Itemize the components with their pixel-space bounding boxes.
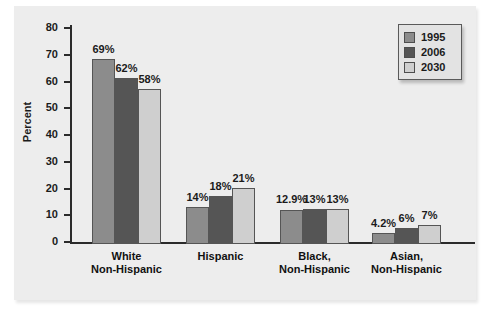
category-label-line: Non-Hispanic bbox=[342, 263, 472, 276]
legend-swatch-icon bbox=[404, 47, 415, 58]
bar bbox=[395, 228, 418, 244]
y-axis-tick bbox=[64, 161, 70, 163]
y-axis-tick-label: 70 bbox=[20, 49, 58, 60]
legend-swatch-icon bbox=[404, 62, 415, 73]
y-axis-tick bbox=[64, 188, 70, 190]
chart-legend: 199520062030 bbox=[398, 24, 462, 80]
plot-area: 80706050403020100 Percent 69%62%58%14%18… bbox=[14, 6, 476, 300]
y-axis-tick bbox=[64, 134, 70, 136]
bar bbox=[303, 209, 326, 244]
y-axis-tick-label: 80 bbox=[20, 22, 58, 33]
y-axis-tick-label: 10 bbox=[20, 209, 58, 220]
category-label-line: Asian, bbox=[342, 250, 472, 263]
y-axis-tick-label: 60 bbox=[20, 76, 58, 87]
bar bbox=[209, 196, 232, 244]
bar bbox=[115, 78, 138, 244]
legend-item: 2006 bbox=[404, 45, 457, 59]
legend-item: 2030 bbox=[404, 60, 457, 74]
y-axis-tick-label: 30 bbox=[20, 156, 58, 167]
bar bbox=[92, 59, 115, 244]
bar bbox=[326, 209, 349, 244]
bar-value-label: 21% bbox=[221, 172, 267, 184]
x-axis-category-label: Asian,Non-Hispanic bbox=[342, 250, 472, 276]
bar bbox=[138, 89, 161, 244]
y-axis-tick-label: 20 bbox=[20, 183, 58, 194]
bar bbox=[186, 207, 209, 244]
y-axis-tick bbox=[64, 214, 70, 216]
bar-value-label: 58% bbox=[127, 73, 173, 85]
bar bbox=[280, 210, 303, 245]
y-axis-tick bbox=[64, 27, 70, 29]
y-axis-tick bbox=[64, 54, 70, 56]
bar bbox=[418, 225, 441, 244]
bar-value-label: 69% bbox=[81, 43, 127, 55]
bar-value-label: 7% bbox=[407, 209, 453, 221]
legend-item-label: 1995 bbox=[421, 32, 445, 43]
bar bbox=[232, 188, 255, 244]
y-axis-tick bbox=[64, 81, 70, 83]
chart-screenshot: 80706050403020100 Percent 69%62%58%14%18… bbox=[0, 0, 500, 320]
legend-item-label: 2030 bbox=[421, 62, 445, 73]
y-axis-tick-label: 0 bbox=[20, 236, 58, 247]
y-axis-title: Percent bbox=[21, 87, 33, 157]
bar bbox=[372, 233, 395, 244]
legend-swatch-icon bbox=[404, 32, 415, 43]
legend-item-label: 2006 bbox=[421, 47, 445, 58]
y-axis-line bbox=[70, 25, 72, 244]
chart-panel: 80706050403020100 Percent 69%62%58%14%18… bbox=[14, 6, 476, 300]
category-label-line: Non-Hispanic bbox=[62, 263, 192, 276]
y-axis-tick bbox=[64, 107, 70, 109]
bar-value-label: 13% bbox=[315, 193, 361, 205]
y-axis-tick bbox=[64, 241, 70, 243]
legend-item: 1995 bbox=[404, 30, 457, 44]
